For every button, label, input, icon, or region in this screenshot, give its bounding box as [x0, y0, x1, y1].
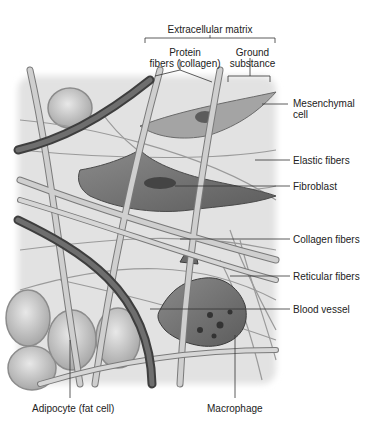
label-macrophage: Macrophage — [207, 403, 263, 414]
label-mesenchymal-cell: Mesenchymal cell — [293, 98, 355, 120]
label-blood-vessel: Blood vessel — [293, 304, 350, 315]
label-adipocyte: Adipocyte (fat cell) — [32, 403, 114, 414]
label-extracellular-matrix: Extracellular matrix — [160, 24, 260, 35]
label-collagen-fibers: Collagen fibers — [293, 234, 360, 245]
label-reticular-fibers: Reticular fibers — [293, 271, 360, 282]
label-elastic-fibers: Elastic fibers — [293, 155, 350, 166]
label-protein-fibers: Protein fibers (collagen) — [140, 47, 230, 69]
label-fibroblast: Fibroblast — [293, 181, 337, 192]
label-ground-substance: Ground substance — [225, 47, 280, 69]
